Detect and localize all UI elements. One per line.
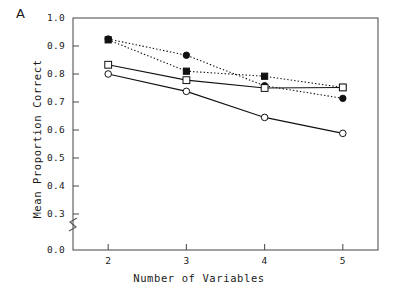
data-point-filled-square bbox=[105, 37, 111, 43]
data-point-open-circle bbox=[183, 88, 190, 95]
data-point-filled-square bbox=[183, 68, 189, 74]
data-point-open-square bbox=[339, 84, 346, 91]
panel-label: A bbox=[16, 6, 25, 21]
plot-frame bbox=[73, 18, 378, 250]
series-line-filled-circle-dotted bbox=[108, 39, 343, 98]
x-axis-tick-label: 4 bbox=[255, 255, 275, 266]
data-point-open-square bbox=[105, 61, 112, 68]
data-point-filled-square bbox=[262, 73, 268, 79]
data-point-filled-circle bbox=[183, 52, 189, 58]
x-axis-tick-label: 5 bbox=[333, 255, 353, 266]
data-point-open-circle bbox=[105, 71, 112, 78]
x-axis-tick-label: 3 bbox=[176, 255, 196, 266]
data-point-open-square bbox=[183, 77, 190, 84]
y-axis-tick-label: 0.9 bbox=[31, 40, 65, 51]
data-point-open-square bbox=[261, 85, 268, 92]
data-point-open-circle bbox=[340, 130, 347, 137]
series-line-open-square-solid bbox=[108, 65, 343, 88]
x-axis-title: Number of Variables bbox=[0, 272, 398, 284]
y-axis-tick-label: 0.3 bbox=[31, 208, 65, 219]
y-axis-break-icon bbox=[69, 218, 77, 231]
y-axis-tick-label: 1.0 bbox=[31, 12, 65, 23]
x-axis-tick-label: 2 bbox=[98, 255, 118, 266]
chart-figure: A Mean Proportion Correct Number of Vari… bbox=[0, 0, 398, 293]
data-point-open-circle bbox=[261, 114, 268, 121]
y-axis-tick-label: 0.4 bbox=[31, 180, 65, 191]
series-line-filled-square-dotted bbox=[108, 40, 343, 88]
y-axis-tick-label: 0.5 bbox=[31, 152, 65, 163]
series-line-open-circle-solid bbox=[108, 74, 343, 133]
y-axis-tick-label: 0.6 bbox=[31, 124, 65, 135]
y-axis-tick-label: 0.7 bbox=[31, 96, 65, 107]
y-axis-tick-label: 0.0 bbox=[31, 244, 65, 255]
data-point-filled-circle bbox=[340, 95, 346, 101]
y-axis-tick-label: 0.8 bbox=[31, 68, 65, 79]
